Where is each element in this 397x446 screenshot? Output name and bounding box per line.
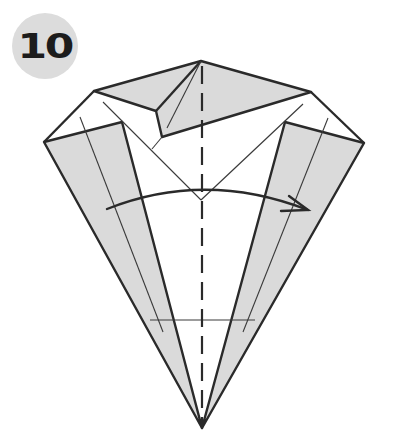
origami-fold-diagram xyxy=(0,0,397,446)
